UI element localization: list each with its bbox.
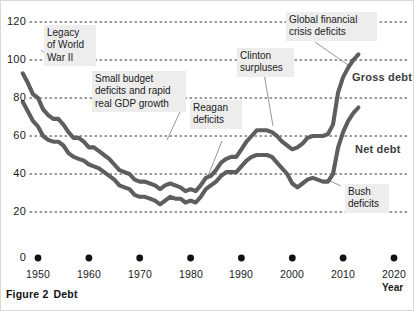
x-axis-label-2010: 2010 [321, 268, 365, 280]
x-axis-label-1980: 1980 [169, 268, 213, 280]
y-axis-label-120: 120 [0, 15, 26, 27]
series-label-net-debt: Net debt [355, 143, 401, 155]
series-label-gross-debt: Gross debt [352, 71, 412, 83]
figure-caption-text: Debt [53, 288, 77, 300]
x-axis-label-1960: 1960 [67, 268, 111, 280]
figure-caption-number: Figure 2 [6, 288, 48, 300]
x-axis-title: Year [382, 282, 403, 293]
y-axis-label-100: 100 [0, 53, 26, 65]
y-axis-label-40: 40 [0, 167, 26, 179]
figure-caption: Figure 2Debt [6, 288, 78, 300]
y-axis-label-60: 60 [0, 129, 26, 141]
annotation-small-budget-deficits: Small budget deficits and rapid real GDP… [92, 71, 186, 112]
y-axis-label-20: 20 [0, 205, 26, 217]
x-axis-label-2020: 2020 [372, 268, 414, 280]
x-axis-label-1950: 1950 [16, 268, 60, 280]
y-axis-label-0: 0 [0, 251, 26, 263]
annotation-clinton-surpluses: Clinton surpluses [237, 48, 294, 77]
annotation-legacy-wwii: Legacy of World War II [44, 25, 96, 66]
x-axis-label-2000: 2000 [270, 268, 314, 280]
annotation-reagan-deficits: Reagan deficits [190, 100, 242, 129]
annotation-global-financial-crisis-deficits: Global financial crisis deficits [286, 12, 377, 41]
x-tick-dots [35, 255, 398, 262]
x-axis-label-1970: 1970 [118, 268, 162, 280]
annotation-bush-deficits: Bush deficits [345, 184, 389, 213]
y-axis-label-80: 80 [0, 91, 26, 103]
x-axis-label-1990: 1990 [219, 268, 263, 280]
